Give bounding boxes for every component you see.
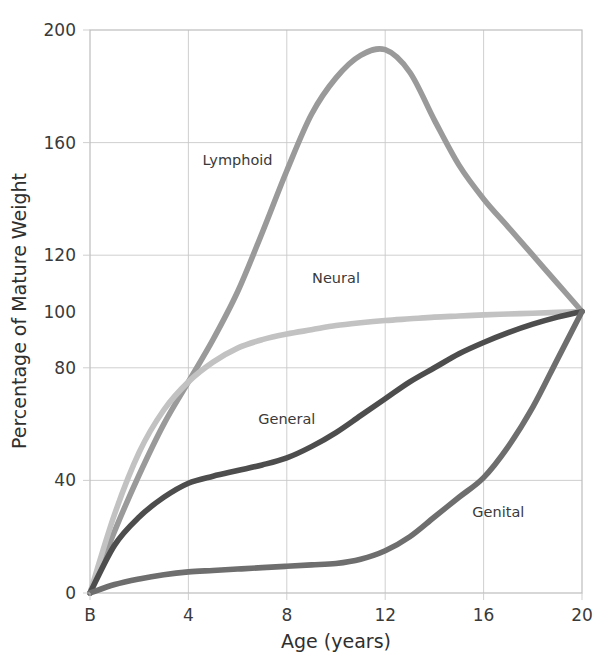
x-tick-label-12: 12 — [374, 605, 396, 625]
y-tick-label-40: 40 — [54, 470, 76, 490]
y-axis-title: Percentage of Mature Weight — [8, 173, 30, 449]
y-tick-label-160: 160 — [44, 133, 76, 153]
x-tick-label-20: 20 — [571, 605, 593, 625]
series-label-general: General — [258, 411, 315, 427]
series-label-lymphoid: Lymphoid — [203, 152, 273, 168]
y-tick-label-80: 80 — [54, 358, 76, 378]
x-tick-label-B: B — [84, 605, 96, 625]
x-tick-label-8: 8 — [281, 605, 292, 625]
x-tick-label-4: 4 — [183, 605, 194, 625]
series-label-genital: Genital — [472, 504, 524, 520]
y-tick-label-100: 100 — [44, 302, 76, 322]
x-axis-title: Age (years) — [281, 630, 391, 652]
y-tick-label-120: 120 — [44, 245, 76, 265]
chart-svg: LymphoidNeuralGeneralGenital 04080100120… — [0, 0, 599, 668]
y-tick-label-0: 0 — [65, 583, 76, 603]
series-label-neural: Neural — [312, 270, 360, 286]
growth-curves-chart: LymphoidNeuralGeneralGenital 04080100120… — [0, 0, 599, 668]
y-tick-label-200: 200 — [44, 20, 76, 40]
x-tick-label-16: 16 — [473, 605, 495, 625]
